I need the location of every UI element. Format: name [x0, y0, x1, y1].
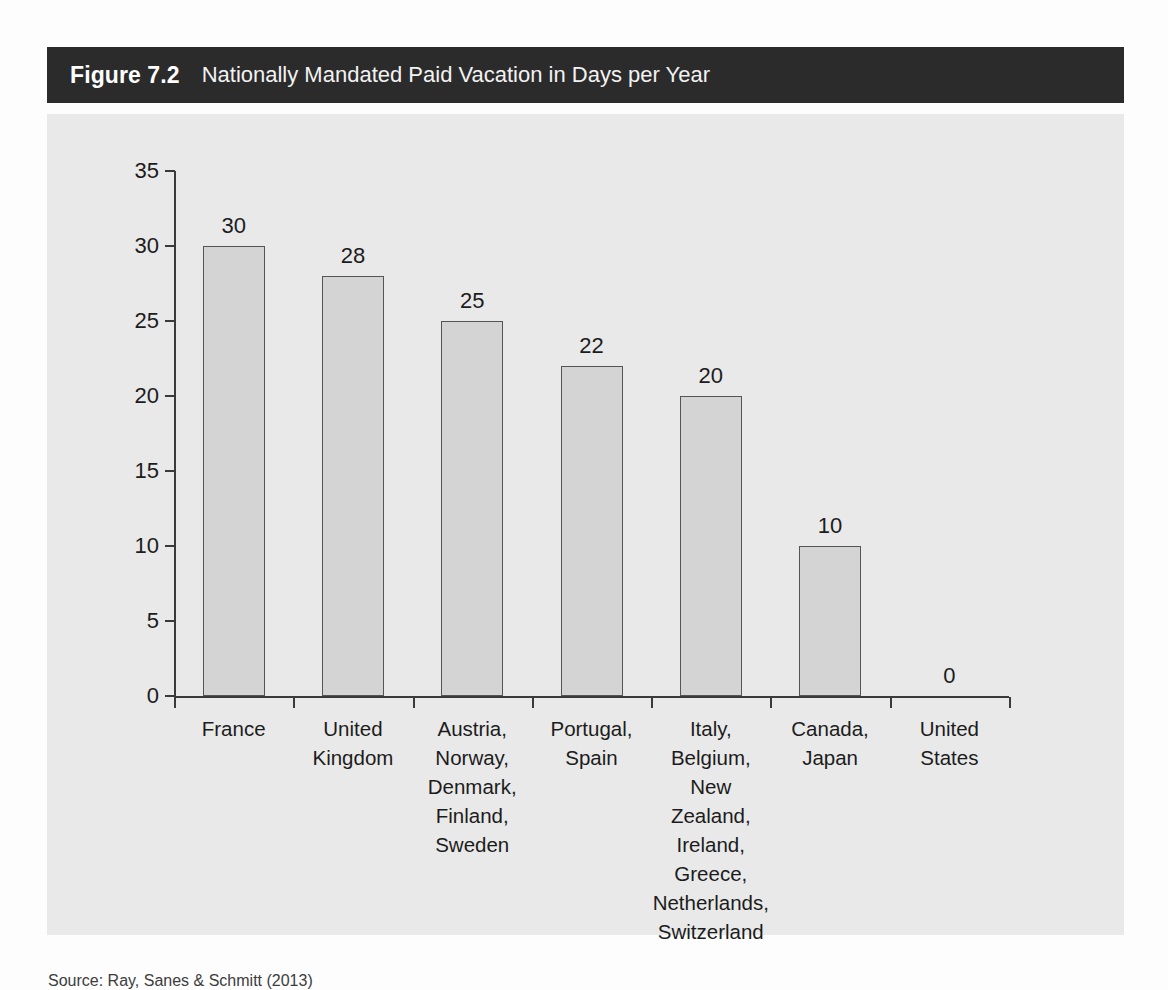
x-tick-mark: [293, 697, 295, 708]
category-label-line: Austria,: [413, 714, 532, 743]
x-tick-mark: [174, 697, 176, 708]
figure-number: Figure 7.2: [70, 62, 180, 89]
category-label: Portugal,Spain: [532, 714, 651, 772]
category-label: UnitedStates: [890, 714, 1009, 772]
bar: [203, 246, 265, 696]
category-label: UnitedKingdom: [293, 714, 412, 772]
category-label-line: Kingdom: [293, 743, 412, 772]
category-label-line: Norway,: [413, 743, 532, 772]
y-tick-mark: [165, 170, 175, 172]
x-tick-mark: [413, 697, 415, 708]
y-tick-mark: [165, 545, 175, 547]
y-tick-label: 20: [109, 383, 159, 409]
source-note: Source: Ray, Sanes & Schmitt (2013): [48, 972, 313, 990]
y-tick-label: 0: [109, 683, 159, 709]
chart-panel: 05101520253035 3028252220100 FranceUnite…: [47, 114, 1124, 935]
y-tick-label: 35: [109, 158, 159, 184]
bar-value-label: 25: [432, 288, 512, 314]
category-label: Italy,Belgium,New Zealand,Ireland,Greece…: [651, 714, 770, 946]
y-tick-label: 15: [109, 458, 159, 484]
y-tick-mark: [165, 395, 175, 397]
bar-value-label: 0: [909, 663, 989, 689]
category-label-line: Canada,: [770, 714, 889, 743]
category-label-line: Portugal,: [532, 714, 651, 743]
y-axis-line: [174, 171, 176, 698]
figure-title: Nationally Mandated Paid Vacation in Day…: [202, 62, 710, 88]
category-label-line: Denmark,: [413, 772, 532, 801]
bar-value-label: 28: [313, 243, 393, 269]
category-label: France: [174, 714, 293, 743]
bar-value-label: 20: [671, 363, 751, 389]
category-label-line: Japan: [770, 743, 889, 772]
category-label-line: France: [174, 714, 293, 743]
y-tick-label: 5: [109, 608, 159, 634]
figure-container: Figure 7.2 Nationally Mandated Paid Vaca…: [0, 0, 1168, 990]
y-tick-label: 10: [109, 533, 159, 559]
y-tick-mark: [165, 620, 175, 622]
category-label-line: New Zealand,: [651, 772, 770, 830]
category-label: Canada,Japan: [770, 714, 889, 772]
category-label-line: Netherlands,: [651, 888, 770, 917]
category-label-line: Spain: [532, 743, 651, 772]
bar-value-label: 30: [194, 213, 274, 239]
bar-value-label: 22: [552, 333, 632, 359]
bar: [441, 321, 503, 696]
bar: [322, 276, 384, 696]
x-tick-mark: [1009, 697, 1011, 708]
category-label-line: States: [890, 743, 1009, 772]
y-tick-label: 25: [109, 308, 159, 334]
x-axis-line: [174, 696, 1009, 698]
category-label-line: Ireland,: [651, 830, 770, 859]
x-tick-mark: [651, 697, 653, 708]
bar-chart-plot-area: 05101520253035 3028252220100 FranceUnite…: [47, 114, 1124, 935]
category-label-line: Sweden: [413, 830, 532, 859]
category-label: Austria,Norway,Denmark,Finland,Sweden: [413, 714, 532, 859]
category-label-line: Greece,: [651, 859, 770, 888]
y-tick-mark: [165, 470, 175, 472]
y-tick-mark: [165, 320, 175, 322]
y-tick-label: 30: [109, 233, 159, 259]
category-label-line: United: [890, 714, 1009, 743]
x-tick-mark: [532, 697, 534, 708]
bar: [561, 366, 623, 696]
figure-title-bar: Figure 7.2 Nationally Mandated Paid Vaca…: [47, 47, 1124, 103]
y-tick-mark: [165, 245, 175, 247]
x-tick-mark: [890, 697, 892, 708]
category-label-line: United: [293, 714, 412, 743]
category-label-line: Belgium,: [651, 743, 770, 772]
category-label-line: Switzerland: [651, 917, 770, 946]
x-tick-mark: [770, 697, 772, 708]
bar: [799, 546, 861, 696]
bar-value-label: 10: [790, 513, 870, 539]
category-label-line: Finland,: [413, 801, 532, 830]
bar: [680, 396, 742, 696]
category-label-line: Italy,: [651, 714, 770, 743]
